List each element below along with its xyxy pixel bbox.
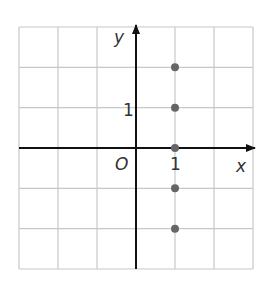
x-axis-label: x xyxy=(235,156,247,176)
origin-label: O xyxy=(115,154,128,174)
data-point xyxy=(171,225,179,233)
data-point xyxy=(171,144,179,152)
y-axis-label: y xyxy=(113,27,125,47)
data-point xyxy=(171,104,179,112)
coordinate-plane: x y O 1 1 xyxy=(0,0,261,285)
data-point xyxy=(171,184,179,192)
data-point xyxy=(171,63,179,71)
y-tick-label: 1 xyxy=(123,100,134,120)
axis-labels: x y O 1 1 xyxy=(113,27,247,176)
axes xyxy=(19,25,255,269)
x-tick-label: 1 xyxy=(170,154,181,174)
